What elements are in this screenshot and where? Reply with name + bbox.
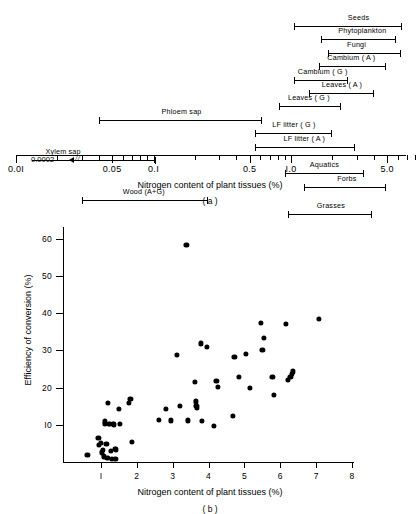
axis-a-minor-tick — [236, 155, 237, 160]
axis-b-y-tick — [56, 276, 63, 277]
panel-a-range-chart: SeedsPhytoplanktonFungiCambium ( A )Camb… — [0, 0, 420, 200]
scatter-point — [117, 421, 122, 426]
scatter-point — [258, 320, 263, 325]
scatter-point — [270, 374, 275, 379]
axis-b-y-line — [63, 227, 64, 462]
scatter-point — [214, 378, 219, 383]
scatter-point — [247, 385, 252, 390]
axis-a-line — [16, 155, 406, 156]
axis-a-minor-tick — [57, 155, 58, 160]
axis-a-minor-tick — [285, 155, 286, 160]
left-arrow-icon — [69, 157, 74, 163]
axis-a-minor-tick — [407, 155, 408, 160]
axis-b-x-tick — [244, 462, 245, 468]
axis-a-tick-label: 0.05 — [103, 164, 122, 174]
axis-b-x-tick — [137, 462, 138, 468]
scatter-point — [230, 413, 235, 418]
axis-a-minor-tick — [278, 155, 279, 160]
axis-a-minor-tick — [357, 155, 358, 160]
scatter-point — [174, 352, 179, 357]
scatter-point — [200, 418, 205, 423]
scatter-point — [232, 355, 237, 360]
offscale-value-label: 0.0002 — [31, 155, 54, 164]
scatter-point — [262, 335, 267, 340]
scatter-point — [85, 453, 90, 458]
axis-a-minor-tick — [195, 155, 196, 160]
scatter-point — [100, 447, 105, 452]
panel-a-caption: ( a ) — [0, 196, 420, 206]
axis-b-x-tick-label: 4 — [206, 471, 211, 481]
scatter-point — [113, 456, 118, 461]
axis-a-minor-tick — [147, 155, 148, 160]
scatter-point — [211, 423, 216, 428]
axis-a-minor-tick — [132, 155, 133, 160]
axis-b-x-tick-label: I — [100, 471, 103, 481]
axis-b-x-tick-label: 2 — [134, 471, 139, 481]
range-bar-label: Cambium ( G ) — [298, 67, 348, 76]
scatter-point — [260, 347, 265, 352]
axis-b-x-tick-label: 3 — [170, 471, 175, 481]
axis-b-x-tick-label: 8 — [349, 471, 354, 481]
axis-b-x-tick — [316, 462, 317, 468]
scatter-point — [244, 352, 249, 357]
axis-b-x-tick-label: 6 — [278, 471, 283, 481]
axis-b-x-tick — [209, 462, 210, 468]
axis-a-major-tick — [387, 155, 388, 163]
panel-b-x-axis-label: Nitrogen content of plant tissues (%) — [0, 487, 420, 497]
scatter-point — [129, 440, 134, 445]
range-bar-label: Phytoplankton — [338, 26, 386, 35]
range-bar-label: Leaves ( A ) — [322, 80, 362, 89]
axis-a-minor-tick — [332, 155, 333, 160]
range-bar-label: Seeds — [348, 13, 369, 22]
axis-a-tick-label: I.0 — [286, 164, 297, 174]
axis-a-minor-tick — [398, 155, 399, 160]
range-bar-label: Cambium ( A ) — [327, 53, 375, 62]
panel-b-y-axis-label: Efficiency of conversion (%) — [23, 240, 33, 420]
range-bar-label: Aquatics — [310, 160, 339, 169]
axis-a-major-tick — [250, 155, 251, 163]
scatter-point — [291, 369, 296, 374]
scatter-point — [116, 406, 121, 411]
axis-b-x-tick-label: 5 — [242, 471, 247, 481]
axis-b-y-tick — [56, 350, 63, 351]
scatter-point — [192, 379, 197, 384]
axis-a-tick-label: 0.5 — [243, 164, 256, 174]
scatter-point — [198, 341, 203, 346]
scatter-point — [283, 321, 288, 326]
axis-a-tick-label: 5.0 — [380, 164, 393, 174]
scatter-point — [164, 406, 169, 411]
scatter-point — [316, 317, 321, 322]
scatter-point — [128, 397, 133, 402]
scatter-point — [111, 422, 116, 427]
axis-a-minor-tick — [219, 155, 220, 160]
axis-b-x-tick — [101, 462, 102, 468]
scatter-point — [113, 447, 118, 452]
axis-a-minor-tick — [270, 155, 271, 160]
axis-b-x-tick — [173, 462, 174, 468]
scatter-point — [195, 405, 200, 410]
scatter-point — [204, 344, 209, 349]
axis-a-tick-label: 0.0I — [8, 164, 24, 174]
axis-a-major-tick — [154, 155, 155, 163]
axis-b-y-tick — [56, 388, 63, 389]
axis-b-y-tick — [56, 425, 63, 426]
range-bar-label: Phloem sap — [162, 107, 202, 116]
axis-b-x-tick — [280, 462, 281, 468]
axis-a-minor-tick — [82, 155, 83, 160]
scatter-point — [271, 392, 276, 397]
axis-a-minor-tick — [260, 155, 261, 160]
range-bar-label: LF litter ( A ) — [283, 134, 325, 143]
panel-b-caption: ( b ) — [0, 504, 420, 514]
axis-a-minor-tick — [99, 155, 100, 160]
axis-b-y-tick — [56, 313, 63, 314]
axis-b-y-tick-label: I0 — [28, 420, 52, 430]
scatter-point — [185, 418, 190, 423]
scatter-point — [106, 400, 111, 405]
axis-a-major-tick — [291, 155, 292, 163]
scatter-point — [215, 384, 220, 389]
axis-a-minor-tick — [140, 155, 141, 160]
axis-a-minor-tick — [374, 155, 375, 160]
range-bar-label: Fungi — [347, 40, 366, 49]
scatter-point — [236, 375, 241, 380]
